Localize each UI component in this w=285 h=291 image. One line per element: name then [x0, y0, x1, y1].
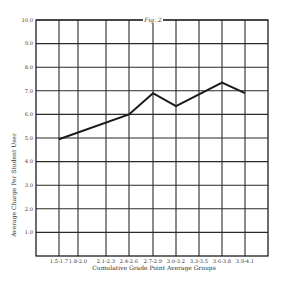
- y-tick-label: 9.0: [25, 40, 33, 46]
- y-tick-label: 3.0: [25, 182, 33, 188]
- y-tick-label: 5.0: [25, 135, 33, 141]
- y-axis-title: Average Charge Per Student User: [10, 133, 18, 238]
- line-chart: Fig. 2 1.02.03.04.05.06.07.08.09.010.0 1…: [0, 0, 285, 291]
- y-tick-label: 1.0: [25, 229, 33, 235]
- x-tick-label: 1.8-2.0: [69, 258, 87, 264]
- y-tick-label: 8.0: [25, 64, 33, 70]
- y-axis-tick-labels: 1.02.03.04.05.06.07.08.09.010.0: [21, 17, 33, 235]
- chart-title: Fig. 2: [143, 16, 162, 24]
- y-tick-label: 4.0: [25, 158, 33, 164]
- y-tick-label: 2.0: [25, 206, 33, 212]
- x-axis-title: Cumulative Grade Point Average Groups: [92, 264, 216, 272]
- x-tick-label: 3.9-4.1: [236, 258, 254, 264]
- y-tick-label: 10.0: [21, 17, 33, 23]
- y-tick-label: 7.0: [25, 88, 33, 94]
- y-tick-label: 6.0: [25, 111, 33, 117]
- x-tick-label: 1.5-1.7: [50, 258, 68, 264]
- horizontal-gridlines: [36, 20, 268, 232]
